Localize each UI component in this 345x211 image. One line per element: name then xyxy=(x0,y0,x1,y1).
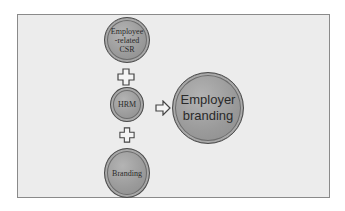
node-label: HRM xyxy=(118,100,136,109)
node-employee-related-csr: Employee -related CSR xyxy=(104,17,150,63)
node-hrm: HRM xyxy=(110,87,144,122)
node-label-line: Employee xyxy=(111,27,143,36)
plus-icon xyxy=(119,127,135,143)
node-label-line: branding xyxy=(181,108,236,124)
node-employer-branding: Employer branding xyxy=(172,72,244,144)
node-label-line: CSR xyxy=(111,45,143,54)
node-label: Branding xyxy=(112,169,142,178)
node-label-line: Employer xyxy=(181,92,236,108)
plus-icon xyxy=(117,68,135,86)
node-label-line: -related xyxy=(111,36,143,45)
right-arrow-icon xyxy=(155,100,171,116)
node-branding: Branding xyxy=(104,148,150,198)
